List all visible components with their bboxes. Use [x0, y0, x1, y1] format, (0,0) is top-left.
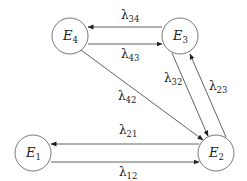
node-e4: E4: [52, 18, 88, 54]
edge-label-lambda-34: λ34: [121, 8, 139, 24]
edge-label-lambda-43: λ43: [121, 47, 139, 63]
node-e2: E2: [198, 135, 234, 171]
edge-label-lambda-12: λ12: [119, 165, 137, 181]
edge-e3-to-e2: [172, 53, 208, 136]
node-e1: E1: [15, 135, 51, 171]
edge-e4-to-e2: [81, 50, 203, 140]
edge-label-lambda-21: λ21: [119, 123, 137, 139]
state-transition-diagram: E1E2E3E4 λ34λ43λ42λ32λ23λ21λ12: [0, 0, 247, 181]
edge-label-lambda-23: λ23: [209, 79, 227, 95]
edge-label-lambda-32: λ32: [164, 71, 182, 87]
edge-label-lambda-42: λ42: [118, 89, 136, 105]
edge-e2-to-e3: [190, 54, 226, 137]
node-e3: E3: [162, 18, 198, 54]
